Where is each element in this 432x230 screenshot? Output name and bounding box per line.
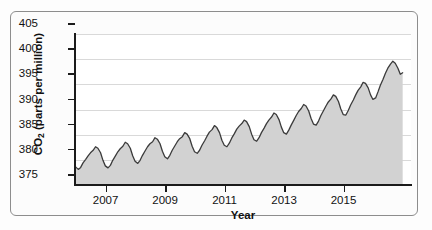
y-axis-line — [74, 33, 76, 186]
co2-area-fill — [76, 61, 403, 185]
y-tick-label: 405 — [0, 17, 38, 29]
x-tick-mark — [284, 186, 286, 192]
y-tick-label: 380 — [0, 143, 38, 155]
co2-chart-figure: CO2 (parts per million) 3753803853903954… — [0, 0, 432, 230]
x-tick-mark — [106, 186, 108, 192]
y-tick-mark — [68, 23, 75, 25]
plot-area — [75, 34, 411, 185]
x-tick-mark — [344, 186, 346, 192]
x-tick-label: 2015 — [314, 194, 374, 207]
y-axis-title-subscript: 2 — [36, 133, 46, 138]
x-tick-mark — [225, 186, 227, 192]
y-tick-label: 400 — [0, 42, 38, 54]
figure-frame: CO2 (parts per million) 3753803853903954… — [10, 11, 418, 216]
x-tick-mark — [165, 186, 167, 192]
x-tick-label: 2007 — [76, 194, 136, 207]
x-axis-title: Year — [75, 209, 411, 221]
y-tick-label: 390 — [0, 93, 38, 105]
x-tick-label: 2009 — [135, 194, 195, 207]
x-tick-label: 2013 — [254, 194, 314, 207]
y-tick-label: 385 — [0, 118, 38, 130]
y-tick-label: 375 — [0, 168, 38, 180]
x-tick-label: 2011 — [195, 194, 255, 207]
co2-area-series — [75, 34, 411, 185]
y-tick-label: 395 — [0, 67, 38, 79]
x-axis-line — [74, 184, 412, 186]
